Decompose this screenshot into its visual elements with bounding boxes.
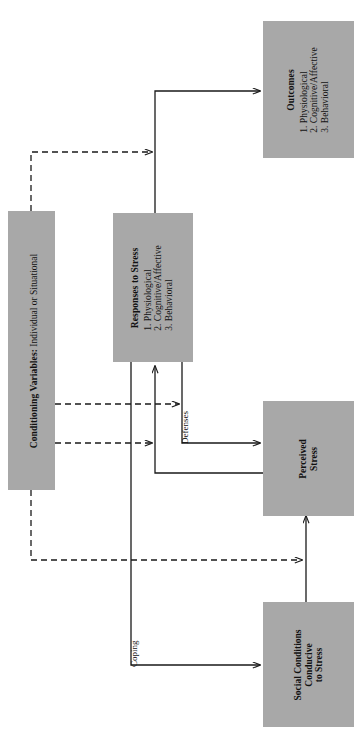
node-outcomes-list: 1. Physiological 2. Cognitive/Affective … [298,47,330,132]
node-social-conditions[interactable]: Social Conditions Conducive to Stress [263,602,354,727]
node-responses-title: Responses to Stress [130,245,141,330]
edge-conditioning-to-outcomes-path [31,152,152,211]
node-responses-content: Responses to Stress 1. Physiological 2. … [130,245,176,330]
node-outcomes-title: Outcomes [286,47,297,132]
list-item: 3. Behavioral [164,245,175,330]
list-item: 3. Behavioral [319,47,330,132]
edge-coping-responses-to-social [131,362,260,665]
edge-label-coping: Coping [129,640,139,667]
node-perceived-content: Perceived Stress [298,439,319,478]
node-outcomes-content: Outcomes 1. Physiological 2. Cognitive/A… [286,47,332,132]
edge-defenses-responses-to-perceived [182,362,260,443]
node-conditioning-subtitle: Individual or Situational [29,253,39,348]
stress-process-diagram: Outcomes 1. Physiological 2. Cognitive/A… [0,0,354,731]
edge-perceived-to-responses [155,366,263,473]
list-item: 1. Physiological [143,245,154,330]
node-perceived-line2: Stress [309,439,320,478]
node-responses-list: 1. Physiological 2. Cognitive/Affective … [143,245,175,330]
node-social-line2: Conducive [303,629,314,700]
edge-responses-to-outcomes [155,91,260,213]
node-social-content: Social Conditions Conducive to Stress [293,629,325,700]
list-item: 2. Cognitive/Affective [153,245,164,330]
node-social-line1: Social Conditions [293,629,304,700]
node-conditioning-title: Conditioning Variables: [29,349,39,448]
node-outcomes[interactable]: Outcomes 1. Physiological 2. Cognitive/A… [263,21,354,158]
node-conditioning-content: Conditioning Variables: Individual or Si… [23,253,41,447]
node-perceived-line1: Perceived [298,439,309,478]
list-item: 2. Cognitive/Affective [309,47,320,132]
edge-label-defenses: Defenses [180,411,190,444]
node-conditioning-variables[interactable]: Conditioning Variables: Individual or Si… [8,211,55,490]
edge-conditioning-to-exposure [31,490,302,560]
list-item: 1. Physiological [298,47,309,132]
node-perceived-stress[interactable]: Perceived Stress [263,401,354,516]
node-social-line3: to Stress [314,629,325,700]
node-responses-to-stress[interactable]: Responses to Stress 1. Physiological 2. … [113,213,193,362]
